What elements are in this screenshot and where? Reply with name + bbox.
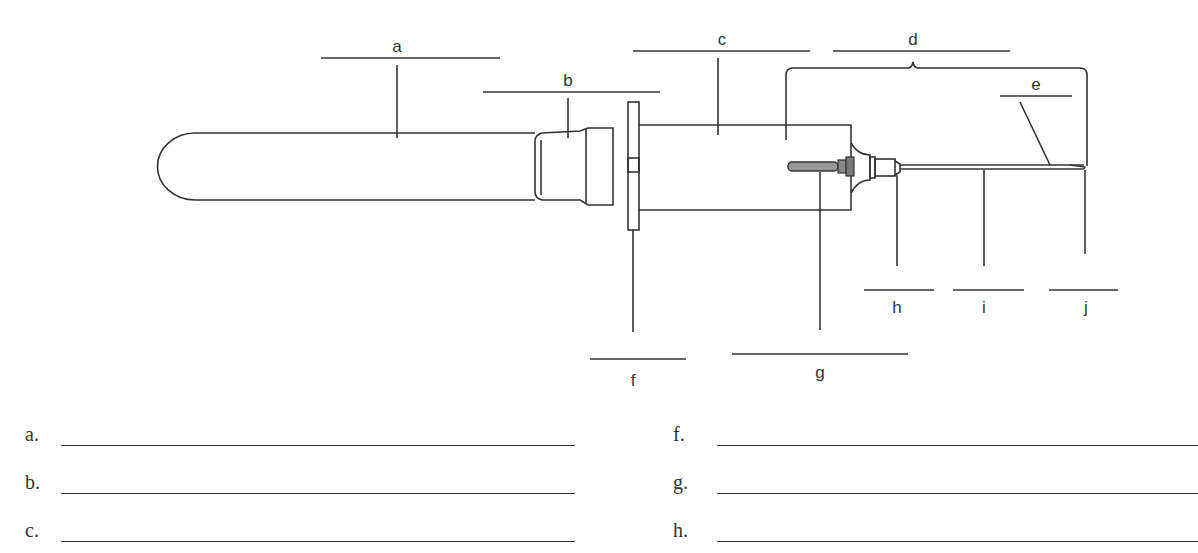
answer-blank-c[interactable]: [61, 523, 575, 542]
answer-row-a: a.: [25, 422, 575, 446]
answer-letter: a.: [25, 423, 61, 446]
answer-letter: c.: [25, 519, 61, 542]
answer-blank-g[interactable]: [717, 475, 1198, 494]
answer-row-f: f.: [673, 422, 1198, 446]
answer-blank-b[interactable]: [61, 475, 575, 494]
answer-letter: f.: [673, 423, 717, 446]
answer-blank-a[interactable]: [61, 427, 575, 446]
answer-row-g: g.: [673, 470, 1198, 494]
answer-row-b: b.: [25, 470, 575, 494]
answer-blank-f[interactable]: [717, 427, 1198, 446]
answer-row-h: h.: [673, 518, 1198, 542]
answer-section: a. b. c. f. g. h.: [0, 0, 1198, 553]
answer-letter: h.: [673, 519, 717, 542]
answer-letter: g.: [673, 471, 717, 494]
answer-letter: b.: [25, 471, 61, 494]
answer-row-c: c.: [25, 518, 575, 542]
answer-blank-h[interactable]: [717, 523, 1198, 542]
